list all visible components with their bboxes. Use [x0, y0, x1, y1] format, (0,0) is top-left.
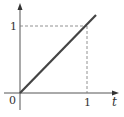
y-axis-arrow-icon: [18, 3, 23, 10]
y-tick-1-label: 1: [10, 20, 17, 33]
x-tick-1-label: 1: [84, 96, 91, 109]
x-axis-label: t: [112, 95, 117, 109]
ramp-chart: 0 1 1 t: [0, 0, 124, 117]
ramp-line: [20, 15, 96, 93]
origin-label: 0: [9, 94, 16, 107]
